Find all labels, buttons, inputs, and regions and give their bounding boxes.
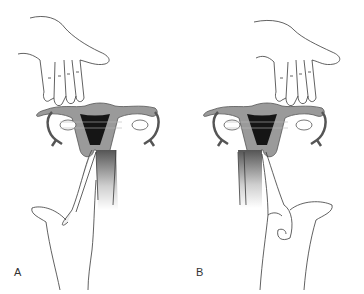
examining-hand-icon <box>32 150 96 290</box>
vaginal-canal <box>238 150 262 208</box>
examining-hand-icon <box>260 152 332 290</box>
uterus-icon <box>204 103 326 157</box>
panel-b: B <box>182 0 364 294</box>
abdominal-hand-icon <box>254 20 340 105</box>
panel-a: A <box>0 0 182 294</box>
abdominal-hand-icon <box>18 16 109 105</box>
panel-b-illustration <box>182 0 364 294</box>
bimanual-exam-figure: A <box>0 0 364 294</box>
uterus-icon <box>37 103 159 157</box>
panel-a-illustration <box>0 0 182 294</box>
panel-label-b: B <box>196 266 203 278</box>
panel-label-a: A <box>14 266 21 278</box>
